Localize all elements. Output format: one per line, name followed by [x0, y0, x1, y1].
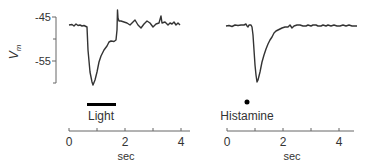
x-tick-label: 4: [178, 135, 185, 149]
figure-canvas: -45 -55 Vm Light Histamine 0 2 4 sec 0 2…: [0, 0, 377, 164]
histamine-stimulus-dot: [245, 100, 250, 105]
stimulus-label-histamine: Histamine: [220, 109, 274, 123]
y-tick-label: -45: [35, 11, 51, 23]
y-tick-label: -55: [35, 55, 51, 67]
x-axis-light: 0 2 4 sec: [66, 128, 190, 162]
stimulus-label-light: Light: [88, 109, 115, 123]
x-tick-label: 4: [336, 135, 343, 149]
y-axis: -45 -55 Vm: [7, 11, 56, 83]
svg-text:Vm: Vm: [7, 44, 23, 59]
x-tick-label: 0: [66, 135, 73, 149]
x-axis-histamine: 0 2 4 sec: [224, 128, 354, 162]
x-axis-label: sec: [117, 150, 135, 162]
y-axis-label: Vm: [7, 44, 23, 59]
trace-histamine: [226, 24, 357, 82]
x-tick-label: 2: [280, 135, 287, 149]
x-tick-label: 2: [122, 135, 129, 149]
x-tick-label: 0: [224, 135, 231, 149]
trace-light: [69, 10, 180, 85]
x-axis-label: sec: [283, 150, 301, 162]
light-stimulus-bar: [87, 103, 116, 106]
